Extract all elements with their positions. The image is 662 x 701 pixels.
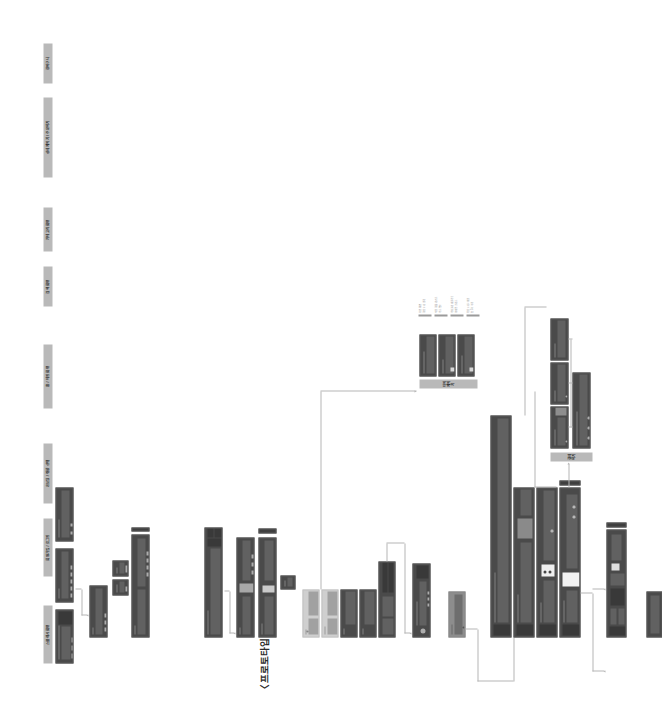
screen-cart-sidebar[interactable] — [606, 522, 626, 527]
section-label-mypage: 마이 페이지 — [419, 379, 477, 388]
arrow-home-to-search — [409, 633, 411, 635]
connector-category-h — [477, 629, 478, 681]
screen-onboarding-step-3[interactable] — [258, 537, 276, 637]
screen-search-main[interactable] — [412, 563, 430, 637]
legend-text-4: 하단 네비게이션 탭 5개 구성 — [466, 297, 473, 313]
screen-home-4[interactable] — [359, 589, 376, 637]
arrow-detail-to-cart — [603, 671, 605, 673]
connector-onboarding-h — [229, 591, 230, 633]
legend-text-1: 메인 화면 상단 배너 영역 — [418, 299, 425, 314]
screen-home-2[interactable] — [321, 589, 338, 637]
screen-cart-extra[interactable] — [646, 591, 662, 637]
screen-splash-1[interactable] — [55, 609, 73, 663]
connector-home-to-mypage-h — [320, 391, 321, 589]
arrow-detail-branch — [603, 589, 605, 591]
legend-row-2: 추천 상품 리스트 카드 형태 — [434, 246, 447, 316]
section-label-home: 홈 / 메인 화면 — [43, 344, 52, 408]
connector-home-to-search-h — [386, 543, 387, 561]
section-label-onboarding: 온보딩 / 취향 선택 — [43, 443, 52, 503]
screen-onboarding-small[interactable] — [280, 575, 295, 589]
screen-signup-sidebar[interactable] — [131, 527, 149, 531]
screen-login-modal-b[interactable] — [112, 560, 128, 576]
section-label-splash: 스플래시 화면 — [43, 605, 52, 663]
screen-detail-row-4[interactable] — [559, 487, 580, 637]
connector-detail-up-v — [534, 487, 556, 488]
connector-splash-to-login — [75, 589, 81, 590]
screen-home-3[interactable] — [340, 589, 357, 637]
connector-home-to-search-v — [386, 543, 404, 544]
screen-onboarding-step-2[interactable] — [236, 537, 254, 637]
screen-detail-row-3[interactable] — [536, 487, 557, 637]
screen-payment-1[interactable] — [550, 406, 568, 448]
connector-category-v — [465, 629, 477, 630]
connector-detail-to-cart-h — [592, 593, 593, 671]
section-label-login: 회원가입 / 로그인 — [43, 518, 52, 576]
legend-row-1: 메인 화면 상단 배너 영역 — [418, 246, 431, 316]
section-label-payment: 결제하기 — [550, 452, 592, 461]
screen-home-detail[interactable] — [378, 561, 395, 637]
legend-row-4: 하단 네비게이션 탭 5개 구성 — [466, 246, 479, 316]
screen-payment-2[interactable] — [550, 362, 568, 404]
connector-home-to-mypage-v — [320, 391, 416, 392]
screen-signup-form[interactable] — [131, 534, 149, 637]
connector-detail-right-v — [524, 307, 546, 308]
screen-onboarding-sidebar[interactable] — [258, 528, 276, 533]
connector-detail-to-payment-h — [568, 463, 569, 487]
connector-detail-to-cart-v — [580, 593, 592, 594]
connector-payment-h — [570, 339, 571, 427]
section-label-search: 검색 화면 — [43, 266, 52, 306]
screen-mypage-1[interactable] — [419, 334, 436, 376]
connector-category-h2 — [513, 637, 514, 681]
connector-home-to-search-h2 — [404, 543, 405, 633]
legend-row-3: 카테고리 바로가기 아이콘 그리드 — [450, 246, 463, 316]
arrow-detail-to-payment — [567, 462, 569, 464]
arrow-home-to-mypage — [414, 391, 416, 393]
connector-category-v2 — [477, 681, 513, 682]
connector-splash-to-login-h — [81, 589, 82, 615]
connector-detail-up-h — [534, 391, 535, 487]
screen-cart-main[interactable] — [606, 529, 626, 637]
screen-onboarding-wide[interactable] — [204, 527, 222, 637]
screen-splash-2[interactable] — [55, 548, 73, 602]
arrow-onboarding — [233, 633, 235, 635]
arrow-splash-to-login — [86, 615, 88, 617]
connector-detail-right-h — [524, 307, 525, 415]
connector-detail-to-cart-v2 — [592, 671, 604, 672]
legend-text-2: 추천 상품 리스트 카드 형태 — [434, 297, 441, 314]
section-label-detail: 상세 페이지 / 주문하기 — [43, 97, 52, 177]
screen-splash-3[interactable] — [55, 487, 73, 541]
connector-detail-branch-v — [592, 589, 604, 590]
legend-text-3: 카테고리 바로가기 아이콘 그리드 — [450, 295, 457, 313]
section-label-category: 카테고리 화면 — [43, 207, 52, 251]
screen-mypage-2[interactable] — [438, 334, 455, 376]
screen-detail-row-2[interactable] — [513, 487, 534, 637]
screen-payment-4[interactable] — [572, 372, 590, 448]
connector-onboarding-v1 — [224, 591, 229, 592]
screen-home-1[interactable] — [302, 589, 319, 637]
section-label-cart: 장바구니 — [43, 43, 52, 83]
screen-detail-sidebar[interactable] — [559, 480, 580, 485]
screen-mypage-3[interactable] — [457, 334, 474, 376]
screen-detail-row-1[interactable] — [490, 415, 511, 637]
screen-login-modal-a[interactable] — [112, 579, 128, 595]
screen-category-main[interactable] — [448, 591, 465, 637]
screen-login-main[interactable] — [89, 585, 107, 637]
screen-payment-3[interactable] — [550, 318, 568, 360]
